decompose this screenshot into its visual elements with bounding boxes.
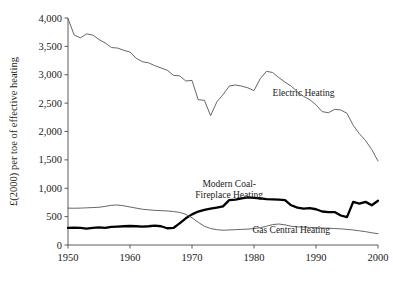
line-chart: £(2000) per toe of effective heating 050… bbox=[0, 0, 397, 285]
x-tick-label: 1970 bbox=[182, 252, 203, 263]
series-line bbox=[68, 205, 378, 234]
x-tick-label: 1960 bbox=[120, 252, 141, 263]
y-axis-title: £(2000) per toe of effective heating bbox=[8, 56, 20, 206]
y-tick-label: 4,000 bbox=[38, 13, 62, 24]
y-tick-label: 1,500 bbox=[38, 154, 62, 165]
y-axis-tick-labels: 05001,0001,5002,0002,5003,0003,5004,000 bbox=[38, 13, 62, 251]
series-line bbox=[68, 197, 378, 228]
y-tick-label: 2,500 bbox=[38, 98, 62, 109]
x-tick-label: 1990 bbox=[306, 252, 327, 263]
series-label: Gas Central Heating bbox=[252, 225, 330, 235]
series-annotations: Electric HeatingModern Coal-Fireplace He… bbox=[195, 88, 335, 234]
y-tick-label: 0 bbox=[57, 240, 62, 251]
y-tick-label: 3,000 bbox=[38, 69, 62, 80]
y-tick-label: 2,000 bbox=[38, 126, 62, 137]
series-label: Modern Coal- bbox=[202, 179, 256, 189]
x-tick-label: 1980 bbox=[244, 252, 265, 263]
axes bbox=[65, 18, 379, 249]
series-label: Electric Heating bbox=[273, 88, 335, 98]
y-tick-label: 500 bbox=[46, 211, 62, 222]
y-tick-label: 3,500 bbox=[38, 41, 62, 52]
data-series bbox=[68, 19, 378, 234]
series-label: Fireplace Heating bbox=[195, 190, 263, 200]
y-axis-title-text: £(2000) per toe of effective heating bbox=[8, 56, 20, 206]
x-tick-label: 1950 bbox=[58, 252, 79, 263]
x-axis-tick-labels: 195019601970198019902000 bbox=[58, 252, 389, 263]
x-tick-label: 2000 bbox=[368, 252, 389, 263]
y-tick-label: 1,000 bbox=[38, 183, 62, 194]
chart-figure: £(2000) per toe of effective heating 050… bbox=[0, 0, 397, 285]
